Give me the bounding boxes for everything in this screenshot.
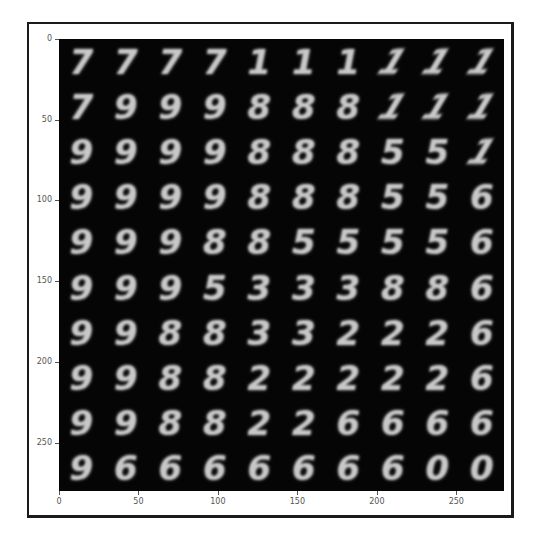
- digit-glyph: 2: [381, 316, 405, 350]
- x-tick-label: 0: [44, 497, 74, 506]
- digit-cell: 3: [282, 310, 327, 355]
- digit-glyph: 1: [463, 90, 500, 124]
- digit-glyph: 8: [247, 225, 271, 259]
- digit-cell: 8: [193, 355, 238, 400]
- digit-glyph: 2: [425, 361, 449, 395]
- digit-glyph: 7: [158, 45, 182, 79]
- digit-cell: 9: [148, 175, 193, 220]
- digit-cell: 9: [59, 446, 104, 491]
- digit-cell: 2: [371, 310, 416, 355]
- digit-cell: 9: [59, 265, 104, 310]
- digit-glyph: 6: [203, 451, 227, 485]
- digit-cell: 9: [104, 84, 149, 129]
- digit-cell: 8: [237, 84, 282, 129]
- digit-cell: 2: [282, 355, 327, 400]
- digit-cell: 8: [237, 175, 282, 220]
- digit-glyph: 9: [158, 271, 182, 305]
- digit-glyph: 9: [158, 180, 182, 214]
- digit-cell: 8: [148, 310, 193, 355]
- digit-glyph: 3: [292, 316, 316, 350]
- y-tick: [55, 120, 59, 121]
- digit-cell: 9: [59, 129, 104, 174]
- digit-cell: 8: [282, 129, 327, 174]
- digit-glyph: 5: [381, 135, 405, 169]
- digit-glyph: 1: [419, 90, 456, 124]
- digit-cell: 3: [237, 310, 282, 355]
- digit-glyph: 6: [114, 451, 138, 485]
- digit-cell: 2: [237, 355, 282, 400]
- digit-glyph: 2: [292, 406, 316, 440]
- digit-glyph: 9: [114, 135, 138, 169]
- digit-cell: 9: [104, 401, 149, 446]
- x-tick-label: 100: [203, 497, 233, 506]
- digit-glyph: 6: [336, 406, 360, 440]
- digit-glyph: 9: [203, 90, 227, 124]
- digit-cell: 5: [371, 175, 416, 220]
- digit-glyph: 5: [425, 225, 449, 259]
- digit-glyph: 9: [114, 271, 138, 305]
- digit-cell: 6: [104, 446, 149, 491]
- digit-glyph: 8: [425, 271, 449, 305]
- digit-glyph: 6: [470, 406, 494, 440]
- digit-glyph: 6: [425, 406, 449, 440]
- digit-cell: 6: [460, 355, 505, 400]
- digit-cell: 6: [148, 446, 193, 491]
- digit-glyph: 9: [114, 180, 138, 214]
- digit-glyph: 5: [336, 225, 360, 259]
- y-tick-label: 50: [26, 115, 52, 124]
- digit-glyph: 1: [336, 45, 360, 79]
- digit-cell: 7: [59, 39, 104, 84]
- digit-glyph: 6: [336, 451, 360, 485]
- digit-glyph: 6: [470, 271, 494, 305]
- x-tick-label: 50: [123, 497, 153, 506]
- digit-cell: 8: [237, 129, 282, 174]
- digit-glyph: 6: [470, 225, 494, 259]
- digit-glyph: 6: [470, 180, 494, 214]
- digit-glyph: 8: [292, 180, 316, 214]
- digit-cell: 9: [59, 401, 104, 446]
- digit-cell: 1: [371, 84, 416, 129]
- digit-glyph: 8: [247, 135, 271, 169]
- digit-glyph: 1: [292, 45, 316, 79]
- digit-glyph: 2: [247, 406, 271, 440]
- digit-glyph: 1: [463, 45, 500, 79]
- digit-glyph: 8: [158, 406, 182, 440]
- digit-cell: 7: [148, 39, 193, 84]
- digit-glyph: 6: [158, 451, 182, 485]
- digit-glyph: 6: [470, 361, 494, 395]
- x-tick: [59, 491, 60, 495]
- digit-cell: 6: [282, 446, 327, 491]
- digit-cell: 7: [59, 84, 104, 129]
- y-tick-label: 0: [26, 34, 52, 43]
- digit-glyph: 6: [381, 406, 405, 440]
- digit-cell: 8: [193, 401, 238, 446]
- digit-glyph: 1: [374, 90, 411, 124]
- digit-cell: 8: [415, 265, 460, 310]
- y-tick-label: 200: [26, 357, 52, 366]
- digit-cell: 8: [282, 175, 327, 220]
- digit-glyph: 1: [419, 45, 456, 79]
- digit-cell: 2: [326, 310, 371, 355]
- digit-glyph: 1: [374, 45, 411, 79]
- digit-cell: 1: [282, 39, 327, 84]
- digit-glyph: 3: [292, 271, 316, 305]
- digit-cell: 1: [460, 39, 505, 84]
- digit-cell: 6: [326, 401, 371, 446]
- digit-glyph: 9: [69, 135, 93, 169]
- digit-cell: 5: [371, 129, 416, 174]
- y-tick: [55, 281, 59, 282]
- digit-glyph: 8: [292, 135, 316, 169]
- digit-cell: 7: [104, 39, 149, 84]
- digit-glyph: 8: [203, 361, 227, 395]
- digit-glyph: 8: [336, 90, 360, 124]
- digit-cell: 6: [371, 401, 416, 446]
- digit-cell: 7: [193, 39, 238, 84]
- digit-cell: 6: [326, 446, 371, 491]
- digit-glyph: 9: [203, 180, 227, 214]
- digit-glyph: 8: [247, 90, 271, 124]
- x-tick: [138, 491, 139, 495]
- digit-cell: 1: [415, 39, 460, 84]
- digit-glyph: 8: [203, 316, 227, 350]
- digit-glyph: 7: [69, 45, 93, 79]
- digit-glyph: 2: [425, 316, 449, 350]
